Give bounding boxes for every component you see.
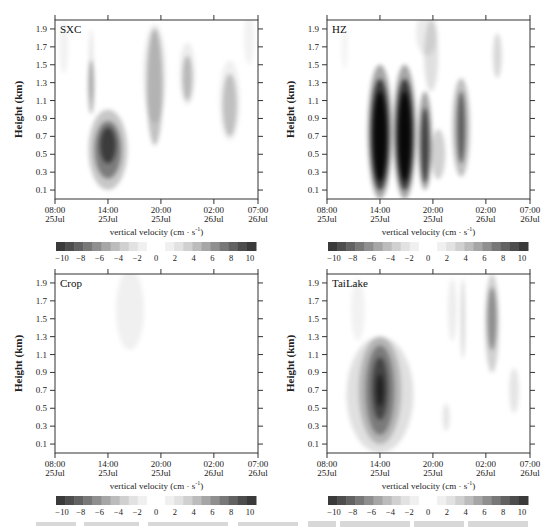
colorbar-swatch <box>410 242 420 251</box>
colorbar-swatch <box>111 496 121 505</box>
colorbar-swatch <box>83 242 93 251</box>
panel-title: SXC <box>60 23 81 35</box>
colorbar-swatch <box>492 496 502 505</box>
x-tick-label-date: 26Jul <box>248 468 268 478</box>
x-tick-label-date: 25Jul <box>98 214 118 224</box>
y-tick-label: 1.9 <box>36 278 48 288</box>
velocity-contour <box>398 92 410 182</box>
colorbar-swatch <box>419 496 429 505</box>
colorbar-swatch <box>192 242 202 251</box>
plot-area <box>55 274 258 453</box>
colorbar-label: 2 <box>173 507 177 517</box>
colorbar-label: −4 <box>114 507 124 517</box>
y-tick-label: 1.5 <box>308 60 320 70</box>
colorbar-swatch <box>401 496 411 505</box>
colorbar-swatch <box>247 242 257 251</box>
colorbar-swatch <box>410 496 420 505</box>
colorbar-swatch <box>165 242 175 251</box>
colorbar-swatch <box>373 242 383 251</box>
colorbar-swatch <box>220 242 230 251</box>
colorbar-swatch <box>473 496 483 505</box>
panel-sxc: 1.91.71.51.31.10.90.70.50.30.1Height (km… <box>0 0 274 264</box>
y-tick-label: 0.5 <box>36 149 48 159</box>
colorbar-swatch <box>392 496 402 505</box>
panel-title: TaiLake <box>332 277 368 289</box>
y-tick-label: 1.3 <box>36 332 48 342</box>
y-tick-label: 1.3 <box>36 78 48 88</box>
x-tick-label-date: 26Jul <box>520 468 540 478</box>
x-tick-label-date: 26Jul <box>204 468 224 478</box>
velocity-contour <box>431 129 445 179</box>
colorbar-label: 8 <box>229 507 233 517</box>
colorbar-swatch <box>401 242 411 251</box>
x-tick-label-date: 26Jul <box>204 214 224 224</box>
chart-svg: 1.91.71.51.31.10.90.70.50.30.1Height (km… <box>0 0 277 266</box>
colorbar-swatch <box>428 242 438 251</box>
colorbar-swatch <box>446 242 456 251</box>
chart-svg: 1.91.71.51.31.10.90.70.50.30.1Height (km… <box>272 254 549 520</box>
colorbar-swatch <box>138 496 148 505</box>
y-tick-label: 1.7 <box>308 42 320 52</box>
colorbar-swatch <box>464 496 474 505</box>
panel-hz: 1.91.71.51.31.10.90.70.50.30.1Height (km… <box>272 0 546 264</box>
velocity-contour <box>443 404 450 431</box>
y-tick-label: 1.1 <box>36 96 47 106</box>
x-axis-title: vertical velocity (cm · s-1) <box>382 480 475 491</box>
colorbar-swatch <box>437 496 447 505</box>
colorbar-swatch <box>510 242 520 251</box>
x-tick-label-date: 25Jul <box>423 214 443 224</box>
x-tick-label-date: 25Jul <box>370 214 390 224</box>
colorbar-swatch <box>120 242 130 251</box>
colorbar-label: −8 <box>76 507 85 517</box>
colorbar: −10−8−6−4−20246810 <box>55 496 256 517</box>
colorbar-swatch <box>355 496 365 505</box>
colorbar-label: −8 <box>348 507 357 517</box>
colorbar-swatch <box>455 242 465 251</box>
colorbar-label: 2 <box>445 507 449 517</box>
y-tick-label: 0.7 <box>308 385 320 395</box>
y-tick-label: 1.5 <box>36 60 48 70</box>
colorbar-label: 4 <box>463 507 468 517</box>
velocity-contour <box>416 11 437 56</box>
colorbar-label: 0 <box>154 507 158 517</box>
colorbar-swatch <box>165 496 175 505</box>
colorbar-swatch <box>437 242 447 251</box>
colorbar-swatch <box>92 242 102 251</box>
colorbar-swatch <box>83 496 93 505</box>
velocity-contour <box>493 33 502 78</box>
colorbar-label: 6 <box>210 507 214 517</box>
velocity-contour <box>89 29 93 101</box>
velocity-contour <box>143 24 166 122</box>
y-tick-label: 0.3 <box>36 421 48 431</box>
y-tick-label: 1.3 <box>308 78 320 88</box>
colorbar-swatch <box>101 496 111 505</box>
colorbar-swatch <box>383 496 393 505</box>
chart-svg: 1.91.71.51.31.10.90.70.50.30.1Height (km… <box>272 0 549 266</box>
y-axis-title: Height (km) <box>12 335 25 392</box>
y-tick-label: 0.1 <box>36 439 47 449</box>
velocity-contour <box>179 42 195 105</box>
colorbar-swatch <box>428 496 438 505</box>
colorbar-swatch <box>201 496 211 505</box>
colorbar-swatch <box>337 496 347 505</box>
y-tick-label: 1.5 <box>308 314 320 324</box>
colorbar-swatch <box>129 242 139 251</box>
y-tick-label: 0.1 <box>36 185 47 195</box>
x-tick-label-date: 25Jul <box>317 214 337 224</box>
velocity-contour <box>219 60 240 141</box>
velocity-contour <box>116 270 144 351</box>
y-tick-label: 0.9 <box>36 113 48 123</box>
x-tick-label-date: 26Jul <box>476 468 496 478</box>
x-tick-label-date: 25Jul <box>423 468 443 478</box>
colorbar-label: 10 <box>246 507 255 517</box>
colorbar-label: −10 <box>327 507 340 517</box>
y-tick-label: 0.7 <box>308 131 320 141</box>
colorbar-swatch <box>201 242 211 251</box>
colorbar-swatch <box>455 496 465 505</box>
y-tick-label: 0.5 <box>36 403 48 413</box>
colorbar-swatch <box>56 496 66 505</box>
colorbar-swatch <box>229 242 239 251</box>
colorbar-swatch <box>238 242 248 251</box>
colorbar-swatch <box>383 242 393 251</box>
colorbar-label: 6 <box>482 507 486 517</box>
